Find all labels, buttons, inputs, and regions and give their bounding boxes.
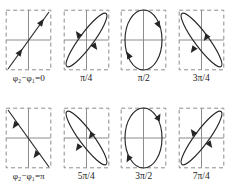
plot-phase-pi-over-2 bbox=[120, 9, 167, 71]
caption-text: 5π/4 bbox=[78, 171, 95, 181]
caption-text: φ₂−φ₁=0 bbox=[13, 73, 45, 83]
lissajous-figure-grid: φ₂−φ₁=0 π/4 bbox=[0, 0, 230, 196]
direction-arrow-2 bbox=[16, 47, 25, 57]
plot-phase-7pi-over-4 bbox=[178, 107, 225, 169]
panel-cell-phase-0: φ₂−φ₁=0 bbox=[0, 0, 58, 98]
plot-phase-5pi-over-4 bbox=[63, 107, 110, 169]
direction-arrow-1 bbox=[10, 121, 19, 131]
panel-caption-phase-3pi-over-4: 3π/4 bbox=[193, 74, 210, 84]
plot-phase-3pi-over-4 bbox=[178, 9, 225, 71]
panel-caption-phase-3pi-over-2: 3π/2 bbox=[135, 172, 152, 182]
plot-phase-pi-over-4 bbox=[63, 9, 110, 71]
panel-grid: φ₂−φ₁=0 π/4 bbox=[0, 0, 230, 196]
panel-cell-phase-pi-over-2: π/2 bbox=[115, 0, 173, 98]
plot-phase-3pi-over-2 bbox=[120, 107, 167, 169]
panel-cell-phase-5pi-over-4: 5π/4 bbox=[58, 98, 116, 196]
caption-text: π/2 bbox=[138, 73, 150, 83]
direction-arrow-1 bbox=[155, 21, 164, 30]
direction-arrow-1 bbox=[155, 112, 164, 121]
panel-cell-phase-3pi-over-4: 3π/4 bbox=[173, 0, 231, 98]
panel-caption-phase-pi: φ₂−φ₁=π bbox=[13, 172, 45, 181]
caption-text: π/4 bbox=[80, 73, 92, 83]
direction-arrow-2 bbox=[31, 150, 40, 160]
direction-arrow-1 bbox=[73, 29, 82, 39]
panel-cell-phase-7pi-over-4: 7π/4 bbox=[173, 98, 231, 196]
plot-phase-0 bbox=[5, 9, 52, 71]
panel-caption-phase-pi-over-2: π/2 bbox=[138, 74, 150, 84]
direction-arrow-2 bbox=[188, 45, 197, 55]
direction-arrow-2 bbox=[124, 50, 133, 59]
direction-arrow-2 bbox=[124, 155, 133, 164]
caption-text: φ₂−φ₁=π bbox=[13, 171, 45, 181]
panel-caption-phase-0: φ₂−φ₁=0 bbox=[13, 74, 45, 83]
caption-text: 7π/4 bbox=[193, 171, 210, 181]
plot-phase-pi bbox=[5, 107, 52, 169]
direction-arrow-2 bbox=[73, 143, 82, 153]
panel-caption-phase-5pi-over-4: 5π/4 bbox=[78, 172, 95, 182]
direction-arrow-1 bbox=[188, 127, 197, 137]
caption-text: 3π/2 bbox=[135, 171, 152, 181]
panel-cell-phase-3pi-over-2: 3π/2 bbox=[115, 98, 173, 196]
panel-cell-phase-pi-over-4: π/4 bbox=[58, 0, 116, 98]
panel-caption-phase-7pi-over-4: 7π/4 bbox=[193, 172, 210, 182]
caption-text: 3π/4 bbox=[193, 73, 210, 83]
panel-cell-phase-pi: φ₂−φ₁=π bbox=[0, 98, 58, 196]
panel-caption-phase-pi-over-4: π/4 bbox=[80, 74, 92, 84]
